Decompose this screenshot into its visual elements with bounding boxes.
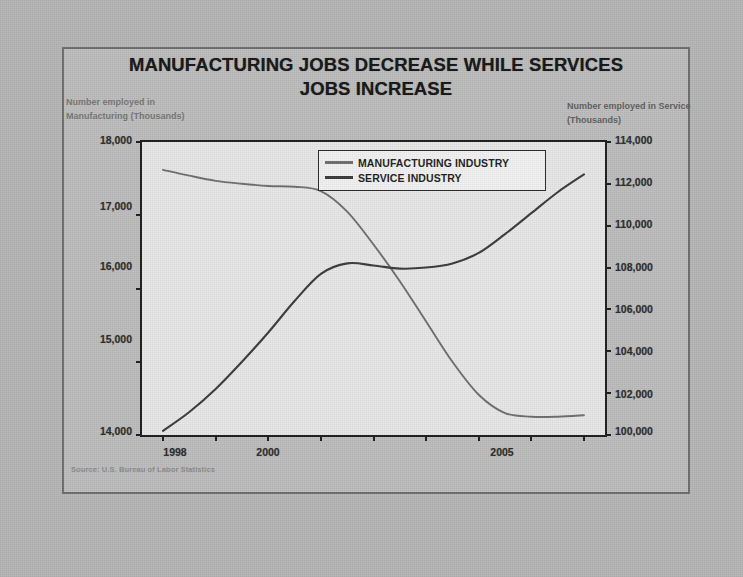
legend-label-manufacturing: MANUFACTURING INDUSTRY [358,157,509,169]
tick-label: 15,000 [74,333,132,345]
legend-swatch-manufacturing-icon [325,161,353,164]
tick-label: 114,000 [615,134,677,146]
tick-mark [605,350,611,352]
tick-mark [136,288,142,290]
tick-mark [605,392,611,394]
tick-label: 2005 [472,446,532,458]
tick-label: 110,000 [615,218,677,230]
tick-mark [136,361,142,363]
tick-mark [605,434,611,436]
right-axis-caption: Number employed in Service (Thousands) [567,100,695,127]
tick-label: 1998 [145,446,205,458]
tick-label: 108,000 [615,261,677,273]
tick-mark [373,435,375,441]
left-axis-caption: Number employed in Manufacturing (Thousa… [66,96,186,123]
tick-label: 106,000 [615,303,677,315]
legend-item-service: SERVICE INDUSTRY [325,170,539,185]
tick-label: 112,000 [615,176,677,188]
tick-mark [530,435,532,441]
legend-swatch-service-icon [325,176,353,179]
tick-mark [136,214,142,216]
chart-legend: MANUFACTURING INDUSTRY SERVICE INDUSTRY [318,150,546,191]
tick-mark [605,225,611,227]
tick-label: 100,000 [615,425,677,437]
tick-label: 17,000 [74,200,132,212]
tick-mark [162,435,164,441]
tick-mark [478,435,480,441]
source-note: Source: U.S. Bureau of Labor Statistics [71,465,215,474]
tick-mark [136,141,142,143]
tick-mark [267,435,269,441]
tick-mark [605,141,611,143]
tick-mark [605,183,611,185]
series-line [163,170,584,417]
tick-label: 104,000 [615,345,677,357]
tick-mark [136,434,142,436]
tick-label: 14,000 [74,425,132,437]
tick-mark [583,435,585,441]
tick-label: 102,000 [615,388,677,400]
tick-mark [425,435,427,441]
legend-item-manufacturing: MANUFACTURING INDUSTRY [325,155,539,170]
tick-label: 16,000 [74,260,132,272]
series-line [163,174,584,430]
tick-mark [215,435,217,441]
tick-mark [320,435,322,441]
tick-mark [605,308,611,310]
legend-label-service: SERVICE INDUSTRY [358,172,462,184]
tick-label: 2000 [238,446,298,458]
page-title: MANUFACTURING JOBS DECREASE WHILE SERVIC… [62,53,690,102]
page-title-line-1: MANUFACTURING JOBS DECREASE WHILE SERVIC… [62,53,690,77]
tick-label: 18,000 [74,134,132,146]
tick-mark [605,267,611,269]
